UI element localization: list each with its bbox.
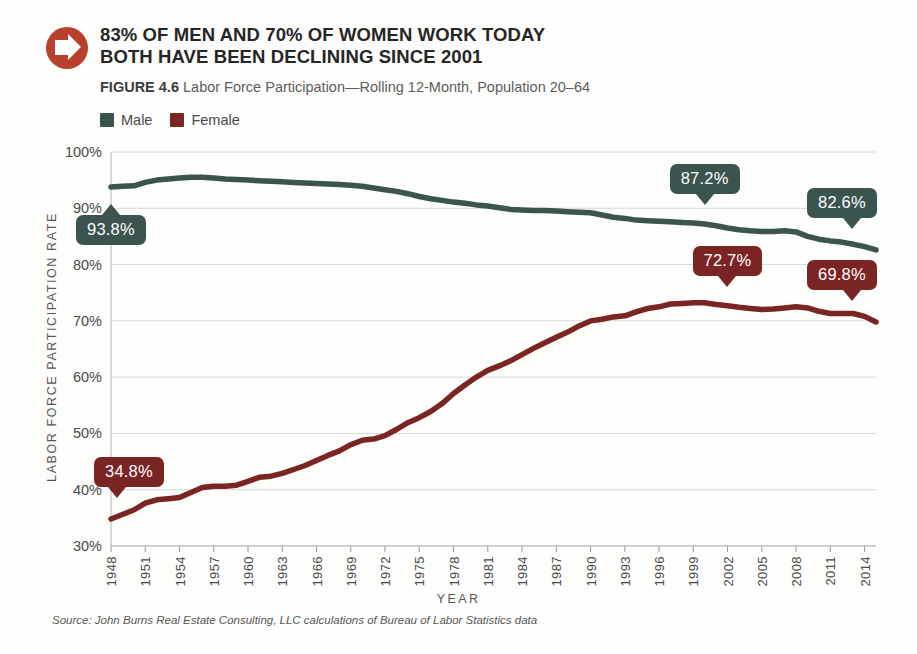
series-line-female: [111, 303, 876, 519]
callout-69-8: 69.8%: [807, 260, 877, 290]
callout-tail: [843, 290, 861, 301]
chart-area: LABOR FORCE PARTICIPATION RATE 30%40%50%…: [0, 0, 917, 654]
x-axis-title: YEAR: [0, 592, 917, 606]
figure-page: 83% OF MEN AND 70% OF WOMEN WORK TODAY B…: [0, 0, 917, 654]
callout-82-6: 82.6%: [807, 188, 877, 218]
plot-svg: [0, 0, 917, 654]
callout-tail: [696, 194, 714, 205]
callout-87-2: 87.2%: [670, 164, 740, 194]
callout-72-7: 72.7%: [693, 246, 763, 276]
callout-tail: [718, 276, 736, 287]
callout-34-8: 34.8%: [94, 457, 164, 487]
callout-93-8: 93.8%: [76, 215, 146, 245]
callout-tail: [108, 487, 126, 498]
source-note: Source: John Burns Real Estate Consultin…: [52, 614, 537, 626]
series-line-male: [111, 177, 876, 250]
callout-tail: [843, 218, 861, 229]
callout-tail: [102, 204, 120, 215]
